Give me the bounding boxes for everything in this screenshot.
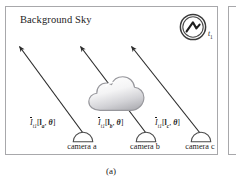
radiance-label-b: It1[lb, θ] [98, 117, 123, 129]
radiance-label-a: It1[la, θ] [30, 117, 55, 129]
camera-b-label: camera b [117, 142, 173, 151]
radiance-label-c: It1[lc, θ] [155, 117, 180, 129]
radiance-symbol-b: I [98, 117, 101, 127]
radiance-close-bracket-c: ] [177, 118, 180, 127]
cloud-icon [86, 74, 148, 116]
radiance-symbol-c: I [155, 117, 158, 127]
background-sky-label: Background Sky [20, 14, 92, 25]
sun-time-label: t1 [208, 29, 213, 40]
radiance-separator-b: , [112, 118, 114, 127]
sun-time-subscript: 1 [210, 34, 213, 40]
sun-icon [178, 12, 212, 46]
sun-group: t1 [178, 12, 212, 46]
figure-panel-a: Background Sky t1 [0, 0, 236, 188]
radiance-close-bracket-a: ] [53, 118, 56, 127]
radiance-separator-a: , [44, 118, 46, 127]
camera-a-label: camera a [54, 142, 110, 151]
radiance-separator-c: , [169, 118, 171, 127]
camera-c-label: camera c [172, 142, 228, 151]
figure-caption: (a) [0, 166, 222, 176]
cloud-group [86, 74, 148, 116]
radiance-close-bracket-b: ] [121, 118, 124, 127]
radiance-symbol-a: I [30, 117, 33, 127]
adjacent-panel-frame [228, 6, 236, 155]
